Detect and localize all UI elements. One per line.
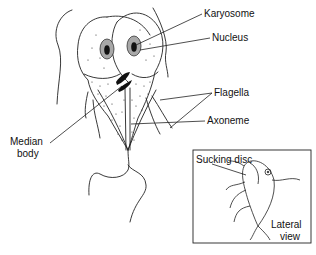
label-karyosome: Karyosome xyxy=(204,8,255,19)
body-outline-left xyxy=(77,17,128,150)
leader-flagella-2 xyxy=(170,93,212,128)
nucleus-right xyxy=(127,36,141,56)
label-sucking-disc: Sucking disc xyxy=(196,154,252,165)
label-lateral-line1: Lateral xyxy=(271,219,302,230)
leader-flagella-1 xyxy=(160,93,212,100)
body-outline-right xyxy=(117,13,163,150)
giardia-diagram xyxy=(0,0,316,255)
label-lateral-line2: view xyxy=(280,231,300,242)
label-axoneme: Axoneme xyxy=(207,115,249,126)
label-median-body-line2: body xyxy=(17,148,39,159)
nucleus-left xyxy=(100,39,114,59)
label-nucleus: Nucleus xyxy=(212,32,248,43)
label-flagella: Flagella xyxy=(214,87,249,98)
caudal-flagellum xyxy=(89,150,129,195)
label-median-body-line1: Median xyxy=(10,136,43,147)
